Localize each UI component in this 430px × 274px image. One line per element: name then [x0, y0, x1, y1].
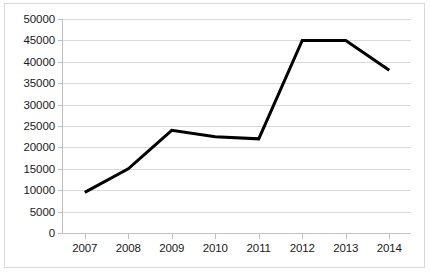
- x-tick-mark: [85, 234, 86, 239]
- x-axis-label: 2009: [159, 242, 184, 254]
- y-tick-mark: [58, 212, 63, 213]
- y-axis-label: 15000: [5, 163, 55, 175]
- y-tick-mark: [58, 83, 63, 84]
- line-series: [63, 19, 411, 233]
- x-tick-mark: [346, 234, 347, 239]
- x-tick-mark: [259, 234, 260, 239]
- y-axis-label: 0: [5, 227, 55, 239]
- x-axis-label: 2008: [116, 242, 141, 254]
- y-axis-label: 10000: [5, 184, 55, 196]
- x-tick-mark: [302, 234, 303, 239]
- y-tick-mark: [58, 19, 63, 20]
- y-axis-label: 25000: [5, 120, 55, 132]
- y-tick-mark: [58, 62, 63, 63]
- x-axis-label: 2011: [247, 242, 271, 254]
- y-axis-label: 30000: [5, 99, 55, 111]
- x-axis-labels: 20072008200920102011201220132014: [63, 234, 411, 264]
- x-tick-mark: [215, 234, 216, 239]
- chart-frame: 20072008200920102011201220132014 0500010…: [4, 3, 425, 268]
- y-tick-mark: [58, 126, 63, 127]
- x-tick-mark: [128, 234, 129, 239]
- y-axis-label: 35000: [5, 77, 55, 89]
- x-axis-label: 2012: [290, 242, 315, 254]
- x-axis-label: 2010: [203, 242, 228, 254]
- y-axis-label: 5000: [5, 206, 55, 218]
- x-tick-mark: [172, 234, 173, 239]
- y-tick-mark: [58, 105, 63, 106]
- y-tick-mark: [58, 169, 63, 170]
- x-axis-label: 2014: [377, 242, 402, 254]
- y-tick-mark: [58, 233, 63, 234]
- y-axis-label: 40000: [5, 56, 55, 68]
- series-polyline: [85, 40, 390, 192]
- y-tick-mark: [58, 147, 63, 148]
- x-tick-mark: [389, 234, 390, 239]
- x-axis-label: 2007: [72, 242, 97, 254]
- y-axis-label: 20000: [5, 141, 55, 153]
- plot-area: [63, 19, 411, 233]
- y-axis-label: 50000: [5, 13, 55, 25]
- y-axis-label: 45000: [5, 34, 55, 46]
- x-axis-label: 2013: [333, 242, 358, 254]
- y-tick-mark: [58, 40, 63, 41]
- y-tick-mark: [58, 190, 63, 191]
